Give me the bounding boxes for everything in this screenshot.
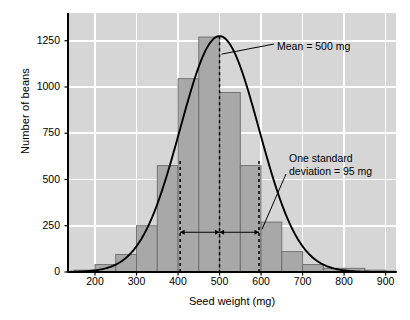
histogram-bar: [282, 252, 303, 272]
x-tick-label: 300: [117, 275, 157, 287]
x-tick-label: 500: [200, 275, 240, 287]
x-tick-label: 700: [283, 275, 323, 287]
x-tick-label: 900: [366, 275, 406, 287]
sd-annotation-label-line1: One standard: [289, 152, 353, 165]
x-tick-label: 200: [75, 275, 115, 287]
histogram-bar: [261, 222, 282, 272]
x-axis-title: Seed weight (mg): [68, 295, 396, 307]
histogram-bar: [303, 265, 324, 272]
y-tick-label: 250: [20, 219, 60, 231]
y-tick-label: 0: [20, 265, 60, 277]
histogram-bar: [199, 37, 220, 272]
histogram-bar: [178, 79, 199, 272]
y-axis-title: Number of beans: [19, 31, 31, 191]
histogram-figure: 025050075010001250 200300400500600700800…: [0, 0, 410, 320]
x-tick-label: 400: [158, 275, 198, 287]
histogram-bar: [240, 166, 261, 272]
histogram-bar: [220, 93, 241, 272]
histogram-bar: [137, 226, 158, 272]
sd-annotation-label-line2: deviation = 95 mg: [289, 165, 372, 178]
x-tick-label: 800: [324, 275, 364, 287]
histogram-bar: [157, 166, 178, 272]
x-tick-label: 600: [241, 275, 281, 287]
mean-annotation-label: Mean = 500 mg: [277, 40, 350, 53]
